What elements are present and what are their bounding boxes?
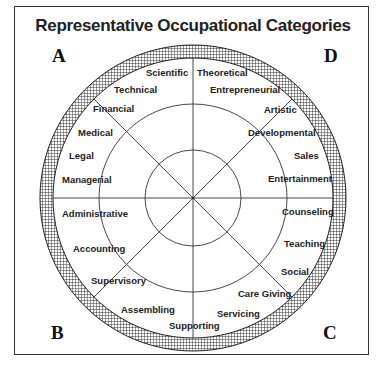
label-entrepreneurial: Entrepreneurial [210,84,280,95]
label-developmental: Developmental [248,127,316,138]
diagram-title: Representative Occupational Categories [35,16,351,35]
corner-label-a: A [52,45,66,66]
occupational-wheel-diagram: Representative Occupational Categories A… [0,0,380,371]
corner-label-d: D [324,45,338,66]
label-counseling: Counseling [282,206,334,217]
label-administrative: Administrative [62,208,128,219]
label-technical: Technical [114,84,157,95]
label-theoretical: Theoretical [197,67,248,78]
corner-label-b: B [51,322,64,343]
label-financial: Financial [93,103,134,114]
label-assembling: Assembling [121,304,175,315]
label-sales: Sales [294,150,319,161]
label-supporting: Supporting [169,320,220,331]
corner-label-c: C [323,322,337,343]
label-managerial: Managerial [62,174,112,185]
label-scientific: Scientific [146,67,188,78]
label-social: Social [281,266,309,277]
label-accounting: Accounting [73,243,125,254]
label-entertainment: Entertainment [268,173,333,184]
label-legal: Legal [69,150,94,161]
label-teaching: Teaching [284,238,325,249]
label-supervisory: Supervisory [91,275,147,286]
label-servicing: Servicing [217,308,260,319]
label-care-giving: Care Giving [238,288,292,299]
label-artistic: Artistic [264,104,297,115]
center-point [192,197,195,200]
label-medical: Medical [78,127,113,138]
